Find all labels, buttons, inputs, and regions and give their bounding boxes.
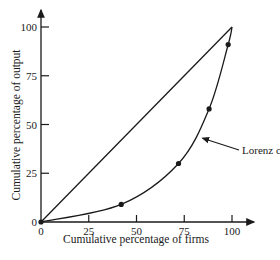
lorenz-curve-chart: 02550751000255075100 Lorenz curve Cumula… (0, 0, 280, 260)
data-point (38, 219, 43, 224)
y-tick-label: 25 (26, 167, 38, 179)
series-layer (41, 27, 232, 222)
x-tick-label: 0 (38, 225, 44, 237)
annotation-label: Lorenz curve (242, 144, 280, 156)
y-tick-label: 50 (26, 119, 38, 131)
annotations: Lorenz curve (203, 138, 280, 156)
data-point (226, 42, 231, 47)
y-tick-label: 75 (26, 70, 38, 82)
y-tick-label: 100 (21, 21, 38, 33)
x-tick-label: 100 (224, 225, 241, 237)
data-point-markers (38, 42, 230, 225)
x-axis-label: Cumulative percentage of firms (63, 233, 209, 246)
annotation-arrow (203, 138, 239, 150)
data-point (119, 202, 124, 207)
data-point (206, 106, 211, 111)
y-axis-label: Cumulative percentage of output (10, 49, 23, 201)
y-tick-label: 0 (32, 216, 38, 228)
equality-line (41, 27, 232, 222)
tick-labels: 02550751000255075100 (21, 21, 241, 237)
data-point (176, 161, 181, 166)
